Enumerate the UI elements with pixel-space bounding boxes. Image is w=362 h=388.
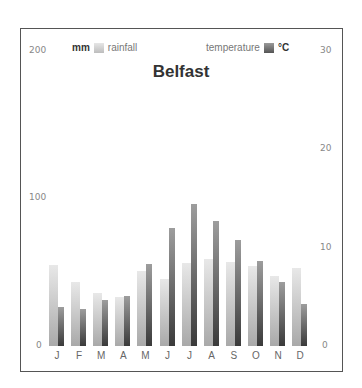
temperature-bar	[279, 282, 285, 346]
rainfall-bar	[71, 282, 80, 346]
temperature-bar	[235, 240, 241, 346]
temperature-bar	[124, 296, 130, 346]
month-label: J	[158, 350, 178, 361]
rainfall-bar	[137, 271, 146, 346]
month-label: J	[47, 350, 67, 361]
temperature-bar	[213, 221, 219, 346]
month-label: O	[246, 350, 266, 361]
month-label: D	[290, 350, 310, 361]
temperature-bar	[102, 300, 108, 346]
rainfall-bar	[182, 263, 191, 346]
temperature-bar	[169, 228, 175, 346]
temperature-bar	[301, 304, 307, 346]
month-label: N	[268, 350, 288, 361]
month-label: A	[202, 350, 222, 361]
rainfall-bar	[248, 266, 257, 346]
rainfall-bar	[115, 297, 124, 346]
temperature-bar	[146, 264, 152, 346]
month-label: M	[91, 350, 111, 361]
rainfall-bar	[292, 268, 301, 346]
month-label: M	[135, 350, 155, 361]
temperature-bar	[80, 309, 86, 346]
month-label: S	[224, 350, 244, 361]
temperature-bar	[58, 307, 64, 346]
rainfall-bar	[204, 259, 213, 346]
plot-area: JFMAMJJASOND	[0, 0, 362, 388]
month-label: J	[180, 350, 200, 361]
month-label: F	[69, 350, 89, 361]
rainfall-bar	[160, 279, 169, 346]
temperature-bar	[191, 204, 197, 346]
month-label: A	[113, 350, 133, 361]
rainfall-bar	[226, 262, 235, 346]
temperature-bar	[257, 261, 263, 346]
rainfall-bar	[270, 276, 279, 346]
rainfall-bar	[49, 265, 58, 346]
rainfall-bar	[93, 293, 102, 346]
